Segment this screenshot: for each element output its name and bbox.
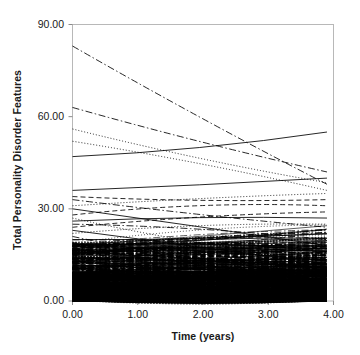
- x-tick-label: 1.00: [115, 308, 161, 320]
- x-tick-label: 3.00: [245, 308, 291, 320]
- x-axis-tick-labels: 0.001.002.003.004.00: [0, 0, 360, 355]
- chart-figure: Total Personality Disorder Features Time…: [0, 0, 360, 355]
- x-tick-label: 4.00: [311, 308, 357, 320]
- x-tick-label: 0.00: [50, 308, 96, 320]
- x-tick-label: 2.00: [180, 308, 226, 320]
